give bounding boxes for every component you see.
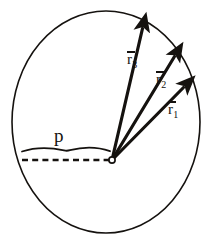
overbar-r2	[156, 71, 164, 73]
vector-label-r3-subscript: 3	[132, 59, 137, 70]
vector-diagram-figure: r 3 r 2 r 1 p	[0, 0, 214, 246]
boundary-circle	[12, 11, 200, 233]
vector-r3-arrow	[112, 29, 143, 161]
vector-label-r1: r 1	[168, 101, 178, 117]
impact-parameter-brace	[22, 148, 110, 152]
vector-label-r3: r 3	[127, 51, 137, 67]
overbar-r3	[127, 51, 135, 53]
figure-canvas	[0, 0, 214, 246]
vertex-origin-point	[109, 157, 115, 163]
vector-label-r2-subscript: 2	[161, 79, 166, 90]
overbar-r1	[168, 101, 176, 103]
vector-label-r2: r 2	[156, 71, 166, 87]
impact-parameter-label: p	[54, 126, 64, 145]
vector-label-r1-subscript: 1	[173, 109, 178, 120]
